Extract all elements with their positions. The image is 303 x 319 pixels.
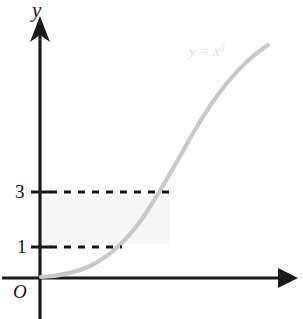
cubic-function-graph: y O 3 1 y = x3 [0,0,303,319]
tick-label-1: 1 [17,237,27,256]
graph-canvas [0,0,303,319]
tick-label-3: 3 [15,182,25,201]
origin-label: O [13,282,27,301]
y-axis-label: y [32,0,41,21]
curve-equation-exponent: 3 [220,41,225,52]
curve-equation-label: y = x3 [189,44,225,59]
x-axis-arrowhead-icon [278,268,298,288]
curve-equation-base: y = x [189,43,220,59]
